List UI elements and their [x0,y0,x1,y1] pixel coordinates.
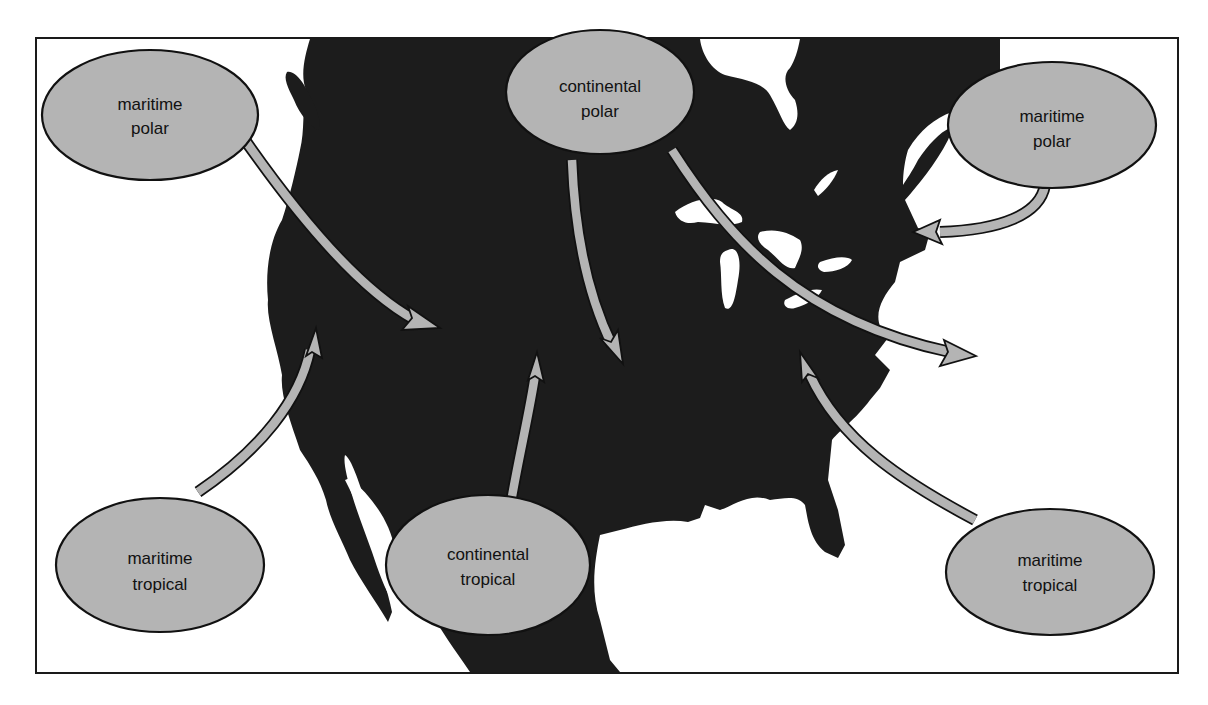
air-mass-bubble-mp-west: maritime polar [42,50,258,180]
air-mass-bubble-mt-east: maritime tropical [946,509,1154,635]
air-mass-bubble-mp-east: maritime polar [948,62,1156,188]
air-mass-bubble-cp: continental polar [506,30,694,154]
bubble-label-line2: polar [1033,132,1071,151]
bubble-label-line2: polar [581,102,619,121]
air-mass-bubble-ct: continental tropical [386,495,590,635]
bubble-label-line2: tropical [133,575,188,594]
bubble-label-line2: tropical [1023,576,1078,595]
bubble-label-line1: maritime [117,95,182,114]
bubble-label-line1: continental [447,545,529,564]
bubble-label-line1: maritime [1019,107,1084,126]
air-mass-bubble-mt-west: maritime tropical [56,498,264,632]
bubble-label-line2: tropical [461,570,516,589]
bubble-label-line1: maritime [127,549,192,568]
air-mass-diagram: maritime polar continental polar maritim… [0,0,1208,705]
bubble-label-line2: polar [131,119,169,138]
bubble-label-line1: maritime [1017,551,1082,570]
bubble-label-line1: continental [559,77,641,96]
arrow-mp-east [913,185,1045,244]
